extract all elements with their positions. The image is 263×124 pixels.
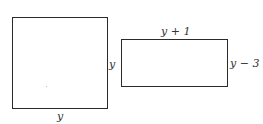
square-side-label: y (109, 59, 115, 70)
rectangle-top-label: y + 1 (161, 26, 190, 37)
rectangle-side-label: y − 3 (230, 58, 259, 69)
square-bottom-label: y (57, 111, 63, 122)
rectangle (121, 39, 228, 87)
square (12, 17, 108, 109)
square-center-mark (46, 86, 47, 87)
